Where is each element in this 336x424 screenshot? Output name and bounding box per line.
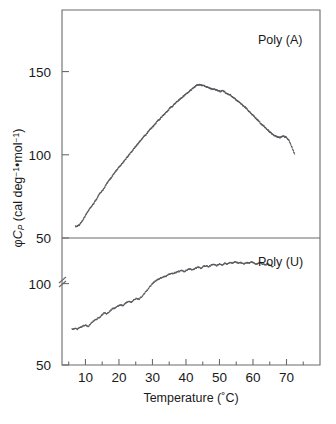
data-point xyxy=(123,305,124,306)
data-point xyxy=(94,202,95,203)
data-point xyxy=(288,140,289,141)
panel-label-poly-a: Poly (A) xyxy=(258,33,302,47)
data-point xyxy=(185,271,186,272)
y-axis-title-close: ) xyxy=(11,129,25,133)
data-point xyxy=(147,133,148,134)
y-axis-title-units-a: (cal deg xyxy=(11,177,25,225)
y-axis-title-phi: φ xyxy=(11,239,25,247)
data-point xyxy=(111,309,112,310)
x-tick-label: 20 xyxy=(111,370,126,385)
data-point xyxy=(167,275,168,276)
data-point xyxy=(164,113,165,114)
x-tick-label: 30 xyxy=(145,370,160,385)
data-point xyxy=(178,272,179,273)
y-tick-label-upper: 100 xyxy=(28,148,51,163)
data-point xyxy=(230,95,231,96)
data-point xyxy=(191,89,192,90)
data-point xyxy=(154,282,155,283)
data-point xyxy=(144,293,145,294)
data-point xyxy=(286,137,287,138)
data-point xyxy=(150,285,151,286)
data-point xyxy=(82,220,83,221)
data-point xyxy=(290,145,291,146)
data-point xyxy=(139,142,140,143)
data-point xyxy=(92,321,93,322)
x-axis-ticks xyxy=(69,359,304,365)
data-point xyxy=(168,110,169,111)
data-point xyxy=(224,91,225,92)
x-axis-tick-labels: 10203040506070 xyxy=(78,370,294,385)
data-point xyxy=(102,315,103,316)
data-point xyxy=(154,124,155,125)
y-tick-label-upper: 150 xyxy=(28,65,51,80)
data-point xyxy=(124,160,125,161)
plot-frame xyxy=(62,10,320,365)
data-point xyxy=(83,218,84,219)
y-axis-title-units-b: •mol xyxy=(11,142,25,167)
data-point xyxy=(293,150,294,151)
x-tick-label: 60 xyxy=(245,370,260,385)
data-series-poly-a xyxy=(75,84,295,228)
data-point xyxy=(259,121,260,122)
x-tick-label: 10 xyxy=(78,370,93,385)
svg-text:φCP (cal deg−1•mol−1): φCP (cal deg−1•mol−1) xyxy=(11,129,26,248)
x-tick-label: 70 xyxy=(279,370,294,385)
data-point xyxy=(160,118,161,119)
data-series-poly-u xyxy=(71,261,273,330)
data-point xyxy=(97,196,98,197)
y-tick-label-lower: 50 xyxy=(36,358,51,373)
x-axis-title: Temperature (˚C) xyxy=(143,391,238,405)
y-tick-label-upper: 50 xyxy=(36,231,51,246)
data-point xyxy=(294,153,295,154)
y-axis-tick-labels: 5010015050100 xyxy=(28,65,51,373)
data-point xyxy=(294,152,295,153)
y-axis-title-sup-1: −1 xyxy=(11,167,21,177)
data-point xyxy=(155,122,156,123)
data-point xyxy=(268,130,269,131)
figure-container: 5010015050100 10203040506070 Poly (A) Po… xyxy=(0,0,336,424)
chart-svg: 5010015050100 10203040506070 Poly (A) Po… xyxy=(0,0,336,424)
data-point xyxy=(292,147,293,148)
x-tick-label: 50 xyxy=(212,370,227,385)
y-axis-ticks-lower xyxy=(62,284,69,365)
panel-label-poly-u: Poly (U) xyxy=(258,255,303,269)
y-axis-ticks-upper xyxy=(62,72,69,238)
data-point xyxy=(245,106,246,107)
x-tick-label: 40 xyxy=(178,370,193,385)
y-tick-label-lower: 100 xyxy=(28,277,51,292)
data-point xyxy=(93,203,94,204)
data-point xyxy=(104,186,105,187)
data-point xyxy=(112,175,113,176)
data-point xyxy=(114,173,115,174)
data-point xyxy=(161,116,162,117)
data-point xyxy=(150,129,151,130)
y-axis-title: φCP (cal deg−1•mol−1) xyxy=(11,129,26,248)
data-point xyxy=(98,195,99,196)
y-axis-title-sup-2: −1 xyxy=(11,132,21,142)
